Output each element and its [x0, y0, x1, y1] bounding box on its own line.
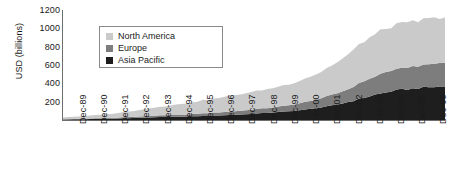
legend-swatch-icon [106, 33, 113, 40]
y-axis-tick-labels: 12001000800600400200 [28, 0, 60, 178]
y-tick-label: 400 [30, 78, 60, 88]
x-tick-label: Dec-98 [269, 94, 279, 124]
x-tick-label: Dec-91 [120, 94, 130, 124]
x-tick-label: Dec-02 [354, 94, 364, 124]
x-axis-tick-labels: Dec-89Dec-90Dec-91Dec-92Dec-93Dec-94Dec-… [63, 122, 445, 178]
y-tick-label: 200 [30, 97, 60, 107]
x-tick-label: Dec-04 [396, 94, 406, 124]
legend-label: Asia Pacific [118, 55, 165, 66]
legend-swatch-icon [106, 45, 113, 52]
x-tick-label: Dec-95 [205, 94, 215, 124]
legend-item: North America [106, 31, 216, 42]
x-tick-label: Dec-99 [290, 94, 300, 124]
x-tick-label: Dec-97 [247, 94, 257, 124]
x-tick-label: Dec-93 [163, 94, 173, 124]
x-tick-label: Dec-06 [438, 94, 448, 124]
x-tick-label: Dec-00 [311, 94, 321, 124]
legend-item: Europe [106, 43, 216, 54]
x-tick-label: Dec-89 [78, 94, 88, 124]
x-tick-label: Dec-03 [375, 94, 385, 124]
y-axis-label: USD (billions) [14, 11, 24, 91]
x-tick-label: Dec-96 [226, 94, 236, 124]
legend-label: North America [118, 31, 175, 42]
legend-swatch-icon [106, 57, 113, 64]
stacked-area-chart: USD (billions) 12001000800600400200 Nort… [0, 0, 450, 178]
x-tick-label: Dec-90 [99, 94, 109, 124]
y-tick-label: 1200 [30, 5, 60, 15]
y-tick-label: 1000 [30, 23, 60, 33]
x-tick-label: Dec-05 [417, 94, 427, 124]
y-tick-label: 600 [30, 60, 60, 70]
legend-label: Europe [118, 43, 147, 54]
x-tick-label: Dec-94 [184, 94, 194, 124]
x-tick-label: Dec-01 [332, 94, 342, 124]
legend: North AmericaEuropeAsia Pacific [99, 26, 223, 68]
legend-item: Asia Pacific [106, 55, 216, 66]
x-tick-label: Dec-92 [141, 94, 151, 124]
y-tick-label: 800 [30, 42, 60, 52]
